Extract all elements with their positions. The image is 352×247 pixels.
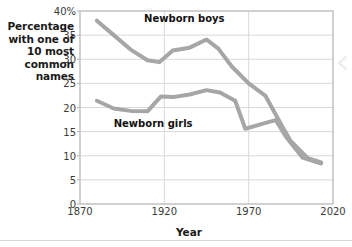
x-tick-label: 1870 (67, 206, 92, 217)
line-chart: Percentage with one of 10 most common na… (0, 0, 352, 247)
series-label-1: Newborn boys (144, 13, 224, 24)
series-label-2: Newborn girls (114, 118, 193, 129)
x-axis-title-text: Year (176, 226, 202, 238)
bottom-divider (0, 240, 352, 241)
chevron-left-icon (336, 55, 350, 71)
x-tick-label: 1970 (236, 206, 261, 217)
x-tick-label: 2020 (320, 206, 345, 217)
x-axis-title: Year (0, 226, 352, 238)
x-tick-label: 1920 (152, 206, 177, 217)
